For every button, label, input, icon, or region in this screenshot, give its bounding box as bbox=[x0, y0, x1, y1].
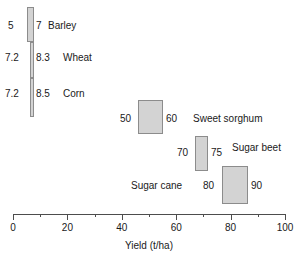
range-box-sugar-beet bbox=[195, 136, 208, 171]
value-label-sugar-beet-high: 75 bbox=[211, 147, 222, 158]
range-box-sweet-sorghum bbox=[138, 100, 163, 134]
value-label-corn-high: 8.5 bbox=[36, 88, 50, 99]
x-tick-label-80: 80 bbox=[225, 222, 236, 234]
category-label-wheat: Wheat bbox=[63, 52, 92, 63]
x-tick-10 bbox=[40, 214, 41, 217]
value-label-corn-low: 7.2 bbox=[5, 88, 19, 99]
x-tick-30 bbox=[95, 214, 96, 217]
category-label-sugar-beet: Sugar beet bbox=[232, 142, 281, 153]
value-label-wheat-low: 7.2 bbox=[5, 52, 19, 63]
value-label-sugar-cane-high: 90 bbox=[251, 180, 262, 191]
category-label-sweet-sorghum: Sweet sorghum bbox=[193, 113, 262, 124]
value-label-barley-high: 7 bbox=[36, 20, 42, 31]
range-box-corn bbox=[30, 78, 34, 117]
category-label-sugar-cane: Sugar cane bbox=[131, 180, 182, 191]
x-tick-40 bbox=[122, 214, 123, 220]
value-label-sugar-beet-low: 70 bbox=[177, 147, 188, 158]
x-tick-70 bbox=[203, 214, 204, 217]
x-tick-label-0: 0 bbox=[10, 222, 16, 234]
range-box-barley bbox=[27, 7, 34, 42]
x-tick-label-40: 40 bbox=[116, 222, 127, 234]
x-axis-title: Yield (t/ha) bbox=[0, 240, 298, 252]
value-label-sugar-cane-low: 80 bbox=[203, 180, 214, 191]
x-tick-0 bbox=[13, 214, 14, 220]
x-tick-90 bbox=[258, 214, 259, 217]
value-label-sweet-sorghum-low: 50 bbox=[120, 113, 131, 124]
x-tick-50 bbox=[149, 214, 150, 217]
yield-range-chart: 5 7 Barley 7.2 8.3 Wheat 7.2 8.5 Corn 50… bbox=[0, 0, 298, 264]
x-tick-80 bbox=[231, 214, 232, 220]
x-tick-60 bbox=[176, 214, 177, 220]
value-label-wheat-high: 8.3 bbox=[36, 52, 50, 63]
x-tick-label-100: 100 bbox=[277, 222, 294, 234]
plot-area: 5 7 Barley 7.2 8.3 Wheat 7.2 8.5 Corn 50… bbox=[0, 0, 298, 210]
category-label-barley: Barley bbox=[48, 20, 76, 31]
range-box-sugar-cane bbox=[222, 166, 248, 204]
category-label-corn: Corn bbox=[63, 88, 85, 99]
x-axis: 020406080100 Yield (t/ha) bbox=[0, 214, 298, 264]
value-label-sweet-sorghum-high: 60 bbox=[166, 113, 177, 124]
x-tick-100 bbox=[285, 214, 286, 220]
x-tick-label-20: 20 bbox=[62, 222, 73, 234]
range-box-wheat bbox=[30, 42, 34, 78]
value-label-barley-low: 5 bbox=[8, 20, 14, 31]
x-tick-20 bbox=[67, 214, 68, 220]
x-tick-label-60: 60 bbox=[171, 222, 182, 234]
